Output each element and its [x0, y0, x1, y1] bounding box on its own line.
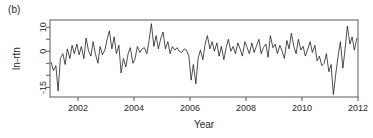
x-tick-label: 2002 — [68, 103, 88, 113]
x-tick-label: 2008 — [236, 103, 256, 113]
plot-frame — [50, 20, 358, 97]
series-line-ln-rtn — [51, 24, 357, 95]
x-tick-label: 2004 — [124, 103, 144, 113]
y-tick-label: 0 — [38, 49, 48, 54]
x-tick-label: 2006 — [180, 103, 200, 113]
x-axis-title: Year — [194, 119, 215, 130]
x-tick-label: 2012 — [348, 103, 368, 113]
x-tick-label: 2010 — [292, 103, 312, 113]
y-axis-title: ln-rtn — [11, 47, 22, 70]
figure-panel-b: (b) 200220042006200820102012100-15ln-rtn… — [0, 0, 373, 138]
y-tick-label: -15 — [38, 81, 48, 94]
line-chart: 200220042006200820102012100-15ln-rtnYear — [0, 0, 373, 138]
y-tick-label: 10 — [38, 22, 48, 32]
